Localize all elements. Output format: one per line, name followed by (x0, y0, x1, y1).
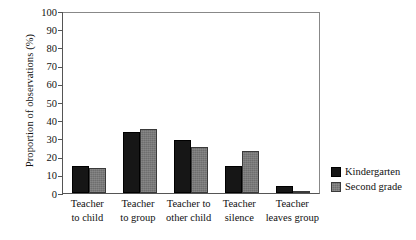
bar-kindergarten (123, 132, 140, 193)
bar-group (63, 13, 114, 193)
y-tick-label: 30 (27, 132, 57, 148)
y-tick-label: 0 (27, 187, 57, 203)
x-axis-label: Teacherleaves group (265, 197, 320, 237)
legend-label-kindergarten: Kindergarten (345, 165, 400, 179)
bar-second-grade (242, 151, 259, 193)
chart-legend: Kindergarten Second grade (331, 165, 416, 195)
y-tick-label: 10 (27, 168, 57, 184)
bar-group (217, 13, 268, 193)
y-tick-label: 100 (27, 5, 57, 21)
y-tick-label: 70 (27, 59, 57, 75)
bar-kindergarten (225, 166, 242, 193)
bar-second-grade (293, 191, 310, 193)
legend-label-second-grade: Second grade (345, 180, 402, 194)
bar-kindergarten (276, 186, 293, 193)
x-axis-label: Teachersilence (214, 197, 265, 237)
bar-kindergarten (174, 140, 191, 193)
y-tick-label: 60 (27, 77, 57, 93)
bar-group (165, 13, 216, 193)
bar-kindergarten (72, 166, 89, 193)
bar-group (268, 13, 319, 193)
y-tick-label: 50 (27, 96, 57, 112)
bar-second-grade (89, 168, 106, 193)
x-axis-label: Teacherto group (113, 197, 164, 237)
y-tick-label: 80 (27, 41, 57, 57)
bar-group (114, 13, 165, 193)
bar-second-grade (140, 129, 157, 193)
y-tick-label: 40 (27, 114, 57, 130)
y-tick-label: 20 (27, 150, 57, 166)
x-axis-label: Teacher toother child (163, 197, 214, 237)
bar-chart: Proportion of observations (%) 010203040… (0, 0, 416, 240)
plot-area: 0102030405060708090100 (62, 12, 320, 194)
x-axis-label: Teacherto child (62, 197, 113, 237)
x-axis-labels: Teacherto childTeacherto groupTeacher to… (62, 197, 320, 237)
legend-swatch-second-grade (331, 182, 341, 192)
legend-item-second-grade: Second grade (331, 180, 416, 194)
bar-second-grade (191, 147, 208, 193)
bar-groups (63, 13, 319, 193)
legend-item-kindergarten: Kindergarten (331, 165, 416, 179)
y-tick-label: 90 (27, 23, 57, 39)
legend-swatch-kindergarten (331, 167, 341, 177)
y-tick-mark (58, 194, 63, 195)
